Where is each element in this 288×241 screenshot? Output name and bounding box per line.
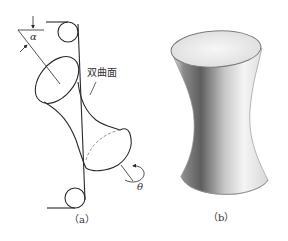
- hyperboloid-right-contour: [78, 82, 120, 130]
- diagram-b: [170, 29, 268, 195]
- theta-axis: [121, 165, 133, 181]
- tangent-generator-line: [78, 24, 85, 200]
- surface-label: 双曲面: [87, 67, 117, 78]
- alpha-arrow-lower: [20, 45, 27, 52]
- alpha-label: α: [30, 31, 37, 42]
- lower-end-ellipse-front: [86, 129, 131, 171]
- hyperboloid-body: [172, 48, 268, 194]
- theta-label: θ: [137, 181, 143, 192]
- hyperboloid-figure: 双曲面 α θ （a） （b）: [0, 0, 288, 241]
- diagram-a: [18, 16, 144, 208]
- top-roller: [58, 22, 78, 42]
- caption-a: （a）: [69, 214, 95, 225]
- bottom-roller: [65, 188, 85, 208]
- lower-end-ellipse-hidden: [86, 130, 120, 160]
- caption-b: （b）: [208, 212, 234, 223]
- surface-label-leader: [90, 82, 96, 95]
- hyperboloid-left-contour: [44, 102, 86, 168]
